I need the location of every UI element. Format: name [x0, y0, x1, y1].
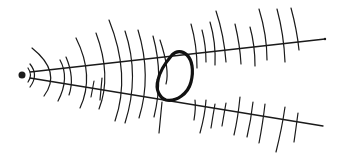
lower-ray — [30, 78, 323, 126]
upper-ray — [30, 39, 325, 72]
upper-ray-end — [324, 38, 326, 40]
lower-ticks — [194, 97, 298, 152]
point-source — [19, 72, 26, 79]
wave-diagram — [0, 0, 342, 164]
upper-ticks — [191, 8, 299, 68]
wavefronts — [28, 20, 167, 133]
obstacle — [157, 52, 192, 101]
diagram-svg — [0, 0, 342, 164]
